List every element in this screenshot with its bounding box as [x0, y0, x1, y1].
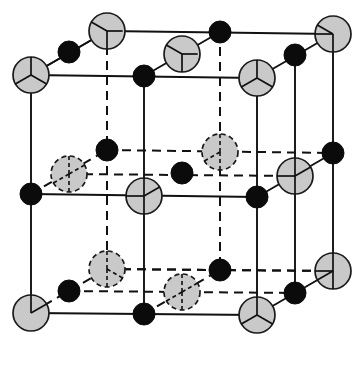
atom-large-face-center-top: [164, 36, 200, 72]
atom-large-face-center-right: [277, 158, 313, 194]
crystal-structure-figure: [0, 0, 361, 371]
atom-small-edge-mid-top-back: [209, 21, 231, 43]
atom-small-edge-mid-bottom-left: [58, 280, 80, 302]
atom-small-body-center: [171, 162, 193, 184]
atom-small-edge-mid-bottom-front: [133, 303, 155, 325]
atom-small-edge-mid-vertical-fr: [246, 186, 268, 208]
atom-large-corner: [239, 297, 275, 333]
atom-large-face-center-left: [51, 156, 87, 192]
atom-small-edge-mid-vertical-br: [322, 142, 344, 164]
atom-large-face-center-back: [202, 134, 238, 170]
atom-large-face-center-front: [126, 178, 162, 214]
atom-large-corner: [89, 251, 125, 287]
atom-large-face-center-bottom: [164, 274, 200, 310]
atom-large-corner: [89, 13, 125, 49]
atom-small-edge-mid-top-right: [284, 44, 306, 66]
atom-large-corner: [13, 57, 49, 93]
atom-small-edge-mid-top-front: [133, 65, 155, 87]
atom-small-edge-mid-vertical-bl: [96, 139, 118, 161]
unit-cell-diagram: [0, 0, 361, 371]
atom-small-edge-mid-bottom-back: [209, 259, 231, 281]
atom-small-edge-mid-bottom-right: [284, 282, 306, 304]
atom-large-corner: [13, 295, 49, 331]
atom-large-corner: [315, 253, 351, 289]
atom-large-corner: [315, 16, 351, 52]
atom-small-edge-mid-top-left: [58, 41, 80, 63]
atom-small-edge-mid-vertical-fl: [20, 183, 42, 205]
atom-large-corner: [239, 60, 275, 96]
